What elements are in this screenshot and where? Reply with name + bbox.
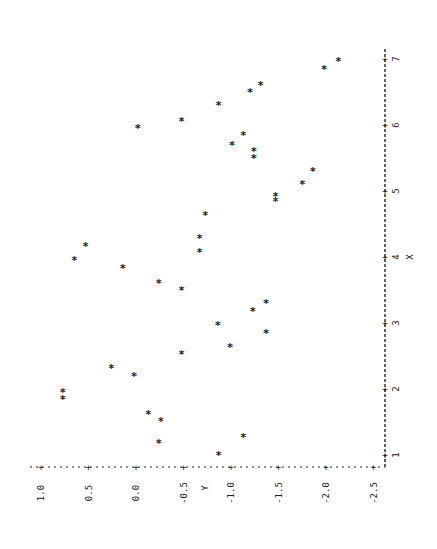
- data-point: *: [257, 79, 264, 92]
- data-point: *: [227, 341, 234, 354]
- data-point: *: [263, 297, 270, 310]
- y-tick-label: 0.5: [84, 485, 94, 501]
- data-point: *: [178, 284, 185, 297]
- data-point: *: [155, 277, 162, 290]
- x-tick-label: 5: [391, 188, 401, 193]
- data-point: *: [229, 139, 236, 152]
- y-tick-mark: +: [38, 462, 44, 472]
- x-tick-label: 6: [391, 122, 401, 127]
- data-point: *: [247, 86, 254, 99]
- data-point: *: [135, 122, 142, 135]
- data-point: *: [82, 240, 89, 253]
- x-axis-label: X: [405, 254, 415, 260]
- data-point: *: [214, 319, 221, 332]
- scatter-chart: +1.0+0.5+0.0+-0.5+-1.0+-1.5+-2.0+-2.5 Y …: [0, 0, 437, 549]
- y-tick-mark: +: [371, 462, 377, 472]
- y-tick-label: -2.0: [321, 482, 331, 504]
- data-point: *: [335, 55, 342, 68]
- data-point: *: [196, 246, 203, 259]
- data-point: *: [196, 232, 203, 245]
- y-tick-label: -1.0: [226, 482, 236, 504]
- x-tick-mark: +: [382, 450, 388, 460]
- y-tick-mark: +: [86, 462, 92, 472]
- x-tick-label: 1: [391, 452, 401, 457]
- data-point: *: [157, 415, 164, 428]
- y-axis-label: Y: [200, 485, 210, 491]
- data-point: *: [215, 99, 222, 112]
- y-tick-label: -1.5: [274, 482, 284, 504]
- data-point: *: [263, 327, 270, 340]
- x-tick-mark: +: [382, 186, 388, 196]
- data-point: *: [215, 449, 222, 462]
- x-tick-label: 3: [391, 320, 401, 325]
- data-point: *: [202, 209, 209, 222]
- data-point: *: [250, 305, 257, 318]
- x-tick-mark: +: [382, 318, 388, 328]
- data-point: *: [299, 178, 306, 191]
- data-point: *: [240, 431, 247, 444]
- data-point: *: [309, 165, 316, 178]
- y-tick-label: -2.5: [369, 482, 379, 504]
- data-point: *: [272, 190, 279, 203]
- x-tick-mark: +: [382, 54, 388, 64]
- y-tick-label: 0.0: [131, 485, 141, 501]
- data-point: *: [108, 362, 115, 375]
- x-tick-label: 4: [391, 254, 401, 259]
- data-point: *: [145, 408, 152, 421]
- x-tick-mark: +: [382, 252, 388, 262]
- data-point: *: [178, 348, 185, 361]
- data-point: *: [119, 262, 126, 275]
- data-points: **************************************: [60, 55, 342, 462]
- x-tick-label: 7: [391, 56, 401, 61]
- data-point: *: [155, 437, 162, 450]
- data-point: *: [240, 129, 247, 142]
- y-tick-mark: +: [228, 462, 234, 472]
- y-tick-mark: +: [323, 462, 329, 472]
- y-tick-label: 1.0: [36, 485, 46, 501]
- data-point: *: [250, 145, 257, 158]
- y-tick-mark: +: [181, 462, 187, 472]
- x-tick-label: 2: [391, 386, 401, 391]
- data-point: *: [71, 254, 78, 267]
- y-tick-mark: +: [133, 462, 139, 472]
- y-tick-mark: +: [276, 462, 282, 472]
- data-point: *: [131, 370, 138, 383]
- data-point: *: [60, 386, 67, 399]
- x-tick-mark: +: [382, 120, 388, 130]
- y-tick-label: -0.5: [179, 482, 189, 504]
- y-axis: +1.0+0.5+0.0+-0.5+-1.0+-1.5+-2.0+-2.5 Y: [30, 462, 385, 504]
- x-tick-mark: +: [382, 384, 388, 394]
- x-axis: +1+2+3+4+5+6+7 X: [382, 48, 415, 467]
- data-point: *: [178, 115, 185, 128]
- data-point: *: [321, 63, 328, 76]
